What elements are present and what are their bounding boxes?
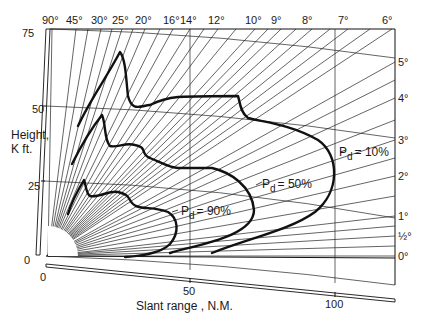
elevation-ray [48, 29, 204, 256]
top-angle-label: 20° [135, 14, 152, 26]
top-angle-label: 6° [382, 14, 393, 26]
pd90-label: Pd= 90% [181, 204, 231, 221]
x-axis-title: Slant range , N.M. [136, 299, 233, 313]
right-angle-label: 0° [398, 250, 409, 262]
pd-labels: Pd= 90% Pd= 50% Pd= 10% [172, 145, 389, 221]
elevation-ray [48, 29, 255, 256]
elevation-ray [48, 29, 173, 256]
top-angle-label: 7° [338, 14, 349, 26]
x-tick-50: 50 [183, 285, 195, 297]
top-angle-label: 16° [163, 14, 180, 26]
pd50-label: Pd= 50% [262, 177, 312, 194]
top-angle-label: 25° [112, 14, 129, 26]
y-tick-0: 0 [24, 254, 30, 266]
y-tick-75: 75 [22, 27, 34, 39]
top-angle-label: 12° [208, 14, 225, 26]
elevation-ray [48, 29, 218, 256]
elevation-ray [48, 29, 88, 256]
right-angle-label: 3° [398, 134, 409, 146]
top-angle-label: 45° [66, 14, 83, 26]
top-angle-label: 14° [180, 14, 197, 26]
top-angle-label: 9° [271, 14, 282, 26]
elevation-ray [48, 29, 268, 256]
top-angle-labels: 90°45°30°25°20°16°14°12°10°9°8°7°6° [42, 14, 393, 26]
top-angle-label: 8° [302, 14, 313, 26]
svg-text:K ft.: K ft. [11, 142, 32, 156]
elevation-ray [48, 29, 112, 256]
x-tick-100: 100 [325, 298, 343, 310]
radar-coverage-chart: Pd= 90% Pd= 50% Pd= 10% 0 25 50 75 Heigh… [0, 0, 422, 324]
top-angle-label: 90° [42, 14, 59, 26]
right-angle-label: 2° [398, 170, 409, 182]
y-tick-50: 50 [32, 103, 44, 115]
right-angle-label: 4° [398, 92, 409, 104]
range-axis-rail [46, 264, 395, 302]
y-tick-25: 25 [28, 180, 40, 192]
svg-text:Height,: Height, [11, 128, 49, 142]
top-angle-label: 30° [91, 14, 108, 26]
right-angle-label: 1° [398, 210, 409, 222]
origin-mask [48, 226, 78, 256]
elevation-ray [48, 29, 160, 256]
right-angle-label: 5° [398, 56, 409, 68]
elevation-ray [48, 98, 395, 256]
elevation-ray [48, 246, 395, 256]
elevation-ray [48, 62, 395, 256]
y-axis-title: Height, K ft. [11, 128, 49, 156]
top-angle-label: 10° [245, 14, 262, 26]
pd10-label: Pd= 10% [339, 145, 389, 162]
right-angle-labels: 5°4°3°2°1°½°0° [398, 56, 412, 262]
x-tick-0: 0 [40, 271, 46, 283]
height-axis-rail [36, 29, 50, 255]
right-angle-label: ½° [398, 230, 412, 242]
range-grid-lines [190, 29, 335, 283]
elevation-ray [48, 29, 236, 256]
elevation-rays [48, 29, 395, 256]
